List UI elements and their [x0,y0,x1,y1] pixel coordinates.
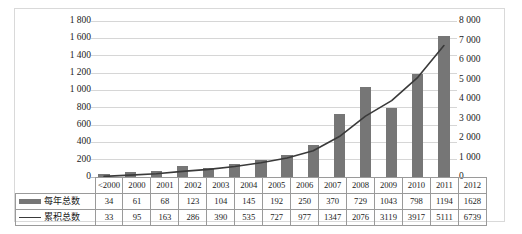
right-axis-tick-label: 3 000 [459,114,480,124]
table-column-header: 2010 [402,178,430,194]
data-table: <200020002001200220032004200520062007200… [15,177,487,226]
bar-slot [405,9,431,177]
table-column-header: 2003 [207,178,235,194]
table-cell: 977 [291,210,319,226]
bar [229,164,240,177]
left-axis-tick-label: 400 [77,137,91,147]
table-cell: 5111 [430,210,458,226]
bar-slot [352,9,378,177]
table-cell: 370 [319,194,347,210]
bar-slot [248,9,274,177]
table-cell: 33 [95,210,123,226]
legend-label: 每年总数 [44,197,80,206]
bar [360,87,371,177]
table-column-header: 2001 [151,178,179,194]
chart-frame: 02004006008001 0001 2001 4001 6001 800 0… [14,8,505,222]
bar-series [91,9,457,177]
left-axis-tick-label: 800 [77,103,91,113]
bar [334,114,345,177]
right-axis-tick-label: 4 000 [459,94,480,104]
bar [412,74,423,177]
right-axis-tick-label: 6 000 [459,55,480,65]
legend-cell: 每年总数 [16,194,96,210]
bar-slot [91,9,117,177]
table-cell: 3917 [402,210,430,226]
table-column-header: 2000 [123,178,151,194]
table-column-header: 2004 [235,178,263,194]
table-cell: 1194 [430,194,458,210]
table-column-header: 2012 [458,178,486,194]
table-column-header: 2005 [263,178,291,194]
table-cell: 6739 [458,210,486,226]
right-axis-tick-label: 8 000 [459,16,480,26]
table-cell: 390 [207,210,235,226]
table-column-header: 2009 [375,178,403,194]
table-row: 累积总数339516328639053572797713472076311939… [16,210,487,226]
legend-line-swatch-icon [19,217,41,218]
table-cell: 798 [402,194,430,210]
bar-slot [196,9,222,177]
table-cell: 145 [235,194,263,210]
bar-slot [274,9,300,177]
bar [281,155,292,177]
table-cell: 1043 [375,194,403,210]
left-axis-tick-label: 1 000 [70,85,91,95]
bar-slot [300,9,326,177]
bar-slot [117,9,143,177]
table-cell: 3119 [375,210,403,226]
table-cell: 1628 [458,194,486,210]
left-axis-tick-label: 200 [77,155,91,165]
table-cell: 1347 [319,210,347,226]
left-axis-tick-label: 600 [77,120,91,130]
legend-label: 累积总数 [44,213,80,222]
table-cell: 104 [207,194,235,210]
table-cell: 286 [179,210,207,226]
table-column-header: 2002 [179,178,207,194]
table-column-header: 2011 [430,178,458,194]
table-cell: 250 [291,194,319,210]
table-row: 每年总数346168123104145192250370729104379811… [16,194,487,210]
table-column-header: <2000 [95,178,123,194]
table-column-header: 2007 [319,178,347,194]
table-header-row: <200020002001200220032004200520062007200… [16,178,487,194]
table-corner-cell [16,178,96,194]
table-cell: 68 [151,194,179,210]
left-axis-tick-label: 1 800 [70,16,91,26]
table-column-header: 2006 [291,178,319,194]
table-cell: 163 [151,210,179,226]
bar-slot [222,9,248,177]
bar [203,168,214,177]
right-axis-tick-label: 2 000 [459,133,480,143]
table-column-header: 2008 [347,178,375,194]
table-cell: 192 [263,194,291,210]
bar [438,36,449,177]
table-cell: 727 [263,210,291,226]
bar-slot [379,9,405,177]
right-axis-tick-label: 5 000 [459,75,480,85]
right-axis-tick-label: 1 000 [459,153,480,163]
table-cell: 123 [179,194,207,210]
table-cell: 2076 [347,210,375,226]
left-axis-tick-label: 1 400 [70,51,91,61]
right-axis-tick-label: 7 000 [459,36,480,46]
bar [177,166,188,177]
plot-area: 02004006008001 0001 2001 4001 6001 800 0… [15,9,506,179]
bar [386,108,397,177]
bar-slot [326,9,352,177]
bar [255,160,266,177]
table-cell: 95 [123,210,151,226]
legend-cell: 累积总数 [16,210,96,226]
left-axis-tick-label: 1 200 [70,68,91,78]
bar-slot [143,9,169,177]
table-cell: 34 [95,194,123,210]
bar-slot [169,9,195,177]
table-cell: 61 [123,194,151,210]
legend-bar-swatch-icon [19,199,41,204]
bar [308,145,319,177]
table-cell: 535 [235,210,263,226]
table-cell: 729 [347,194,375,210]
bar-slot [431,9,457,177]
left-axis-tick-label: 1 600 [70,33,91,43]
